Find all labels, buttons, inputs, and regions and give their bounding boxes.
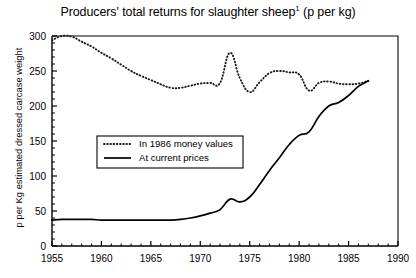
legend-label: In 1986 money values: [139, 138, 233, 149]
x-tick-label: 1955: [41, 253, 64, 264]
x-tick-label: 1985: [337, 253, 360, 264]
x-tick-label: 1975: [239, 253, 262, 264]
y-tick-label: 150: [29, 136, 46, 147]
data-series-real-terms: [52, 36, 368, 93]
plot-area: 050100150200250300 195519601965197019751…: [0, 0, 416, 278]
x-tick-label: 1990: [387, 253, 410, 264]
x-axis-ticks: 19551960196519701975198019851990: [41, 241, 410, 264]
chart-figure: Producers' total returns for slaughter s…: [0, 0, 416, 278]
data-series-layer: [52, 36, 368, 221]
legend-label: At current prices: [139, 152, 209, 163]
x-tick-label: 1970: [189, 253, 212, 264]
y-axis-ticks: 050100150200250300: [29, 31, 57, 252]
y-tick-label: 300: [29, 31, 46, 42]
x-tick-label: 1960: [90, 253, 113, 264]
chart-legend: In 1986 money valuesAt current prices: [97, 136, 243, 168]
x-tick-label: 1965: [140, 253, 163, 264]
y-tick-label: 100: [29, 171, 46, 182]
x-tick-label: 1980: [288, 253, 311, 264]
y-tick-label: 200: [29, 101, 46, 112]
y-tick-label: 0: [40, 241, 46, 252]
y-tick-label: 250: [29, 66, 46, 77]
y-tick-label: 50: [35, 206, 47, 217]
